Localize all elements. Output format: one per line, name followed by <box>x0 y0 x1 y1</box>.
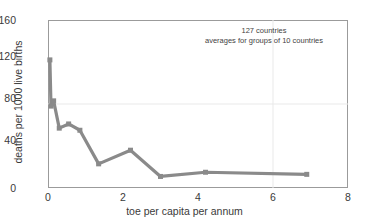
data-point-marker <box>51 98 56 103</box>
data-point-marker <box>158 174 163 179</box>
data-point-marker <box>128 148 133 153</box>
chart-figure: 160 120 80 40 0 0 2 4 6 8 toe per capita… <box>0 0 369 224</box>
x-tick-label: 6 <box>263 192 283 203</box>
x-axis-title: toe per capita per annum <box>0 205 369 217</box>
y-tick-label: 0 <box>10 183 16 194</box>
data-point-marker <box>57 126 62 131</box>
data-point-marker <box>304 172 309 177</box>
annotation-line-1: 127 countries <box>188 26 340 36</box>
data-point-marker <box>77 128 82 133</box>
data-point-marker <box>47 57 52 62</box>
data-point-marker <box>96 161 101 166</box>
data-series-line <box>50 60 307 177</box>
x-tick-label: 4 <box>188 192 208 203</box>
data-point-marker <box>203 170 208 175</box>
chart-annotation: 127 countries averages for groups of 10 … <box>188 26 340 46</box>
x-tick-label: 8 <box>338 192 358 203</box>
data-series-markers <box>47 57 309 179</box>
x-tick-label: 0 <box>38 192 58 203</box>
data-point-marker <box>66 121 71 126</box>
annotation-line-2: averages for groups of 10 countries <box>188 36 340 46</box>
y-axis-title: deaths per 1000 live births <box>12 22 24 182</box>
data-point-marker <box>49 104 54 109</box>
x-tick-label: 2 <box>113 192 133 203</box>
